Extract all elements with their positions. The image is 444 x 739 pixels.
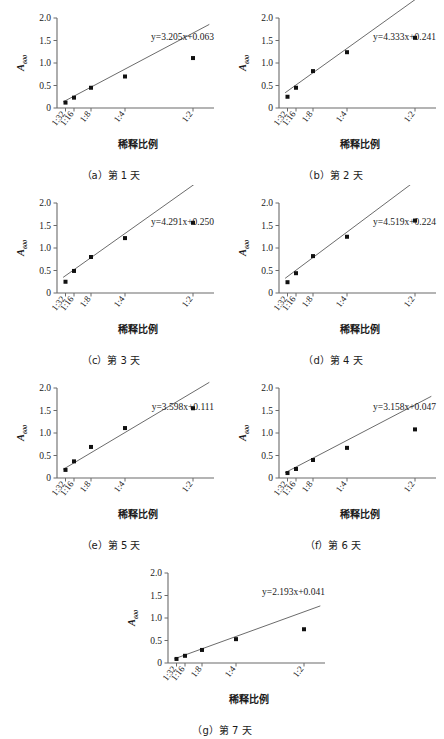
y-tick-label: 2.0	[39, 198, 51, 208]
plot-svg-d: 00.51.01.52.01:321:161:81:41:2A600稀释比例y=…	[222, 185, 444, 370]
y-tick-label: 1.0	[261, 428, 273, 438]
equation-label: y=3.598x+0.111	[152, 402, 215, 412]
data-point	[175, 657, 179, 661]
y-tick-label: 0	[268, 473, 273, 483]
regression-line	[285, 0, 431, 93]
y-tick-label: 1.5	[39, 36, 51, 46]
y-axis-title-a: A600	[15, 55, 28, 72]
y-tick-label: 2.0	[261, 13, 273, 23]
data-point	[286, 280, 290, 284]
svg-text:A600: A600	[126, 610, 139, 627]
x-axis-title-d: 稀释比例	[340, 323, 380, 335]
data-points-e	[64, 406, 196, 472]
x-axis-title-f: 稀释比例	[340, 508, 380, 520]
data-points-g	[175, 627, 307, 661]
plot-svg-b: 00.51.01.52.01:321:161:81:41:2A600稀释比例y=…	[222, 0, 444, 185]
y-tick-label: 0.5	[39, 81, 51, 91]
plot-panel-d: 00.51.01.52.01:321:161:81:41:2A600稀释比例y=…	[222, 185, 444, 370]
data-point	[89, 255, 93, 259]
panel-caption: （b）第 2 天	[303, 169, 362, 181]
data-point	[89, 445, 93, 449]
y-tick-label: 1.5	[39, 221, 51, 231]
data-point	[294, 467, 298, 471]
y-axis-ticks-e: 00.51.01.52.0	[39, 383, 57, 483]
x-tick-label: 1:2	[402, 294, 417, 309]
x-axis-ticks-f: 1:321:161:81:41:2	[271, 478, 416, 498]
data-point	[345, 446, 349, 450]
data-point	[200, 648, 204, 652]
data-points-f	[286, 427, 418, 475]
y-axis-title-d: A600	[237, 240, 250, 257]
y-tick-label: 1.0	[39, 428, 51, 438]
plot-svg-a: 00.51.01.52.01:321:161:81:41:2A600稀释比例y=…	[0, 0, 222, 185]
x-axis-title-g: 稀释比例	[229, 693, 269, 705]
data-point	[234, 637, 238, 641]
x-axis-ticks-g: 1:321:161:81:41:2	[160, 663, 305, 683]
y-tick-label: 2.0	[261, 198, 273, 208]
x-tick-label: 1:2	[402, 479, 417, 494]
data-point	[72, 96, 76, 100]
plot-panel-e: 00.51.01.52.01:321:161:81:41:2A600稀释比例y=…	[0, 370, 222, 555]
data-point	[123, 426, 127, 430]
plot-panel-c: 00.51.01.52.01:321:161:81:41:2A600稀释比例y=…	[0, 185, 222, 370]
panel-caption: （e）第 5 天	[82, 539, 141, 551]
x-tick-label: 1:2	[180, 294, 195, 309]
panel-caption: （a）第 1 天	[82, 169, 141, 181]
svg-text:A600: A600	[15, 55, 28, 72]
y-tick-label: 0	[268, 288, 273, 298]
data-point	[294, 86, 298, 90]
regression-line	[63, 185, 209, 277]
data-point	[72, 269, 76, 273]
data-point	[302, 627, 306, 631]
plot-panel-a: 00.51.01.52.01:321:161:81:41:2A600稀释比例y=…	[0, 0, 222, 185]
figure-sheet: 00.51.01.52.01:321:161:81:41:2A600稀释比例y=…	[0, 0, 444, 739]
equation-label: y=3.205x+0.063	[151, 32, 214, 42]
equation-label: y=3.158x+0.047	[373, 402, 436, 412]
plot-panel-b: 00.51.01.52.01:321:161:81:41:2A600稀释比例y=…	[222, 0, 444, 185]
y-tick-label: 0.5	[261, 266, 273, 276]
regression-line	[174, 606, 320, 659]
svg-text:A600: A600	[237, 425, 250, 442]
plot-svg-g: 00.51.01.52.01:321:161:81:41:2A600稀释比例y=…	[111, 555, 333, 739]
data-point	[413, 427, 417, 431]
plot-svg-c: 00.51.01.52.01:321:161:81:41:2A600稀释比例y=…	[0, 185, 222, 370]
y-axis-ticks-c: 00.51.01.52.0	[39, 198, 57, 298]
data-point	[311, 458, 315, 462]
y-tick-label: 1.0	[39, 243, 51, 253]
regression-line	[285, 185, 431, 278]
data-point	[64, 280, 68, 284]
x-axis-title-e: 稀释比例	[118, 508, 158, 520]
svg-text:A600: A600	[237, 55, 250, 72]
y-tick-label: 1.5	[261, 36, 273, 46]
y-tick-label: 1.5	[261, 406, 273, 416]
y-tick-label: 0	[46, 473, 51, 483]
y-tick-label: 2.0	[150, 568, 162, 578]
y-tick-label: 1.0	[39, 58, 51, 68]
y-tick-label: 0	[46, 103, 51, 113]
data-point	[294, 271, 298, 275]
data-point	[183, 654, 187, 658]
equation-label: y=4.291x+0.250	[151, 217, 214, 227]
panel-caption: （d）第 4 天	[303, 354, 362, 366]
y-axis-title-f: A600	[237, 425, 250, 442]
data-point	[64, 468, 68, 472]
data-point	[286, 471, 290, 475]
y-tick-label: 1.5	[150, 591, 162, 601]
plot-panel-f: 00.51.01.52.01:321:161:81:41:2A600稀释比例y=…	[222, 370, 444, 555]
svg-text:A600: A600	[237, 240, 250, 257]
x-axis-ticks-c: 1:321:161:81:41:2	[49, 293, 194, 313]
y-tick-label: 0	[268, 103, 273, 113]
equation-label: y=2.193x+0.041	[262, 587, 325, 597]
x-axis-ticks-d: 1:321:161:81:41:2	[271, 293, 416, 313]
panel-caption: （c）第 3 天	[82, 354, 140, 366]
x-axis-ticks-e: 1:321:161:81:41:2	[49, 478, 194, 498]
x-axis-title-a: 稀释比例	[118, 138, 158, 150]
x-tick-label: 1:2	[180, 109, 195, 124]
x-tick-label: 1:2	[402, 109, 417, 124]
svg-text:A600: A600	[15, 425, 28, 442]
panel-caption: （g）第 7 天	[192, 724, 251, 736]
y-axis-ticks-d: 00.51.01.52.0	[261, 198, 279, 298]
regression-line	[63, 382, 209, 469]
plot-svg-e: 00.51.01.52.01:321:161:81:41:2A600稀释比例y=…	[0, 370, 222, 555]
y-tick-label: 1.0	[150, 613, 162, 623]
